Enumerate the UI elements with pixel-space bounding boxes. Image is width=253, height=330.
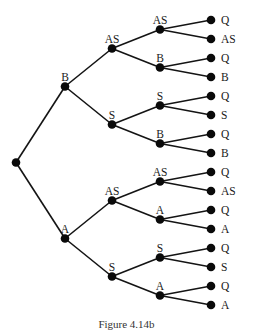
tree-edge bbox=[160, 58, 211, 68]
tree-edge bbox=[160, 96, 211, 106]
tree-edge bbox=[160, 220, 211, 230]
leaf-node bbox=[207, 187, 216, 196]
tree-edge bbox=[160, 20, 211, 30]
tree-node bbox=[61, 82, 70, 91]
leaf-node bbox=[207, 130, 216, 139]
node-label: AS bbox=[153, 166, 168, 178]
tree-node bbox=[61, 234, 70, 243]
tree-node bbox=[108, 272, 117, 281]
leaf-node bbox=[207, 282, 216, 291]
tree-node bbox=[156, 253, 165, 262]
tree-edge bbox=[16, 163, 65, 239]
node-label: S bbox=[157, 242, 163, 254]
leaf-node bbox=[207, 225, 216, 234]
leaf-label: S bbox=[221, 261, 227, 273]
tree-edge bbox=[160, 286, 211, 296]
leaf-node bbox=[207, 35, 216, 44]
tree-edge bbox=[112, 277, 160, 296]
root-node bbox=[12, 158, 21, 167]
tree-edge bbox=[65, 201, 112, 239]
tree-edge bbox=[160, 258, 211, 268]
tree-node bbox=[108, 44, 117, 53]
leaf-label: S bbox=[221, 109, 227, 121]
tree-edge bbox=[112, 125, 160, 144]
node-label: B bbox=[61, 71, 69, 83]
leaf-node bbox=[207, 263, 216, 272]
node-label: S bbox=[109, 109, 115, 121]
tree-edge bbox=[160, 248, 211, 258]
tree-edge bbox=[160, 182, 211, 192]
tree-edge bbox=[160, 144, 211, 154]
tree-edge bbox=[160, 210, 211, 220]
leaf-label: A bbox=[221, 223, 230, 235]
leaf-label: Q bbox=[221, 166, 230, 178]
tree-node bbox=[156, 25, 165, 34]
tree-edge bbox=[160, 68, 211, 78]
tree-edge bbox=[65, 87, 112, 125]
leaf-node bbox=[207, 244, 216, 253]
tree-edge bbox=[160, 172, 211, 182]
leaf-label: Q bbox=[221, 280, 230, 292]
leaf-label: A bbox=[221, 299, 230, 311]
node-label: S bbox=[157, 90, 163, 102]
tree-edge bbox=[16, 87, 65, 163]
tree-edge bbox=[65, 239, 112, 277]
leaf-node bbox=[207, 301, 216, 310]
tree-edge bbox=[65, 49, 112, 87]
node-label: A bbox=[156, 204, 165, 216]
leaf-label: Q bbox=[221, 52, 230, 64]
leaf-node bbox=[207, 206, 216, 215]
leaf-node bbox=[207, 111, 216, 120]
leaf-label: B bbox=[221, 147, 229, 159]
tree-node bbox=[108, 120, 117, 129]
tree-edge bbox=[112, 258, 160, 277]
node-label: B bbox=[156, 128, 164, 140]
node-label: AS bbox=[105, 33, 120, 45]
leaf-label: B bbox=[221, 71, 229, 83]
tree-edge bbox=[160, 134, 211, 144]
tree-node bbox=[156, 139, 165, 148]
node-label: A bbox=[156, 280, 165, 292]
node-label: AS bbox=[153, 14, 168, 26]
tree-node bbox=[156, 291, 165, 300]
node-label: S bbox=[109, 261, 115, 273]
tree-edge bbox=[112, 106, 160, 125]
tree-node bbox=[156, 101, 165, 110]
leaf-label: Q bbox=[221, 128, 230, 140]
tree-node bbox=[156, 215, 165, 224]
tree-node bbox=[108, 196, 117, 205]
leaf-label: Q bbox=[221, 14, 230, 26]
leaf-label: Q bbox=[221, 204, 230, 216]
node-label: AS bbox=[105, 185, 120, 197]
leaf-node bbox=[207, 92, 216, 101]
leaf-node bbox=[207, 54, 216, 63]
leaf-node bbox=[207, 168, 216, 177]
leaf-label: AS bbox=[221, 33, 236, 45]
tree-node bbox=[156, 63, 165, 72]
leaf-label: AS bbox=[221, 185, 236, 197]
leaf-node bbox=[207, 73, 216, 82]
leaf-node bbox=[207, 149, 216, 158]
tree-edge bbox=[112, 201, 160, 220]
leaf-label: Q bbox=[221, 90, 230, 102]
tree-edge bbox=[112, 49, 160, 68]
node-label: A bbox=[61, 223, 70, 235]
figure-caption: Figure 4.14b bbox=[0, 318, 253, 330]
tree-edge bbox=[160, 30, 211, 40]
tree-edge bbox=[160, 106, 211, 116]
tree-edge bbox=[160, 296, 211, 306]
leaf-label: Q bbox=[221, 242, 230, 254]
leaf-node bbox=[207, 16, 216, 25]
node-label: B bbox=[156, 52, 164, 64]
tree-node bbox=[156, 177, 165, 186]
